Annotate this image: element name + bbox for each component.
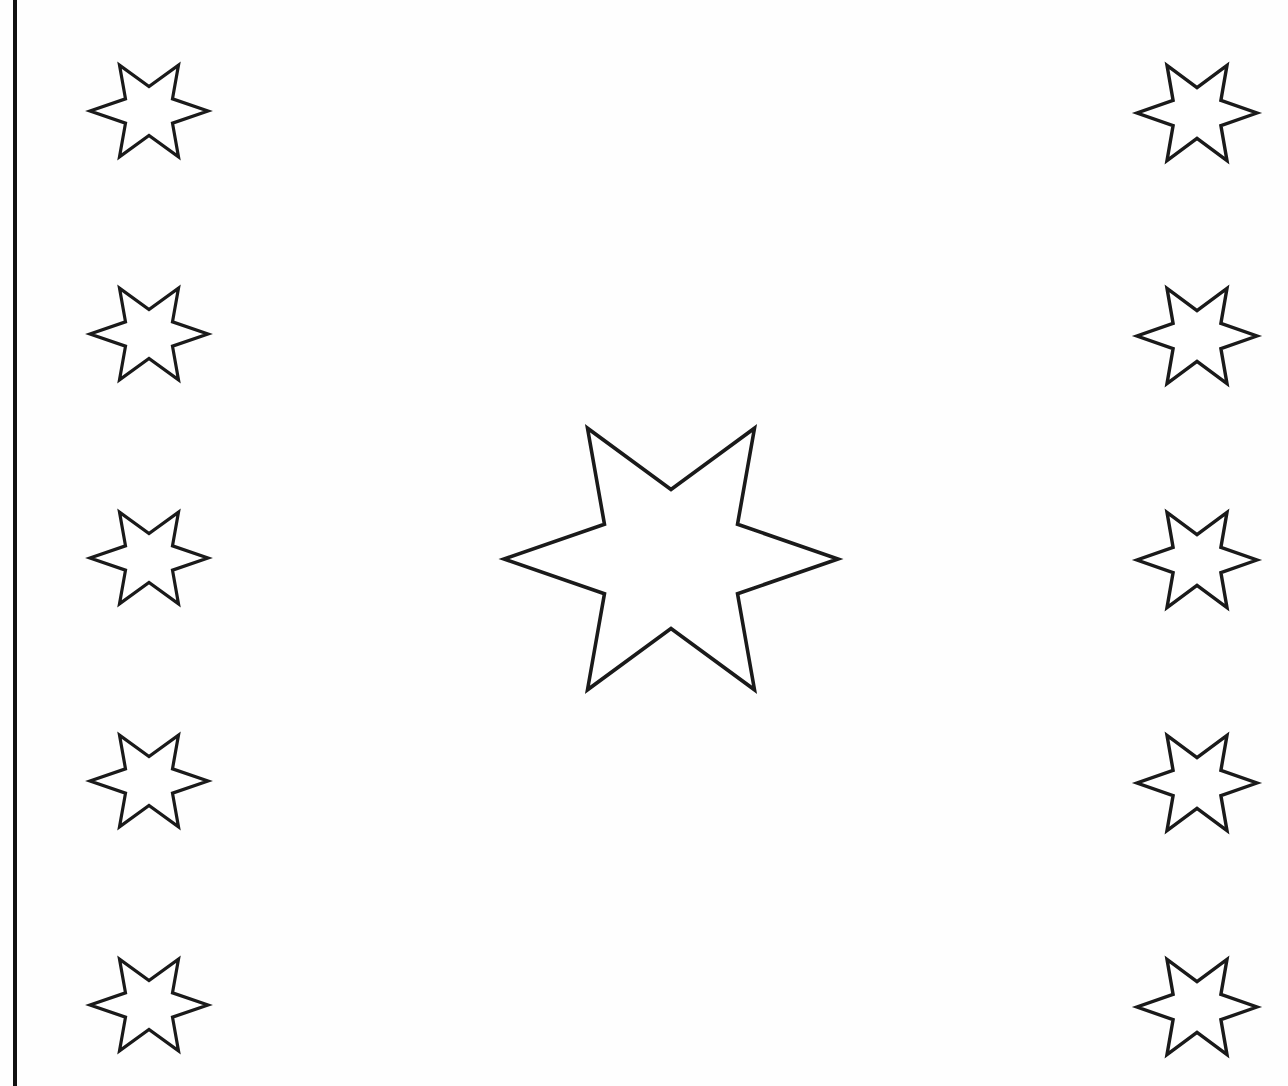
star-diagram bbox=[0, 0, 1288, 1086]
star-pattern-canvas bbox=[0, 0, 1288, 1086]
